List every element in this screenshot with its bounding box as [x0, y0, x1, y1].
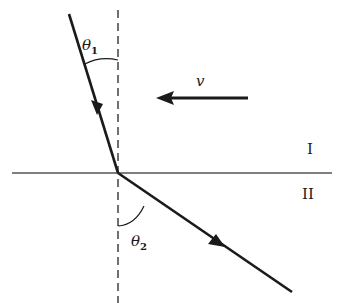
region-upper-label: I: [307, 140, 313, 158]
region-lower-label: II: [302, 185, 314, 203]
incident-arrowhead-icon: [91, 100, 103, 115]
theta1-label: θ1: [82, 36, 98, 56]
theta1-subscript: 1: [91, 45, 98, 56]
theta2-label: θ2: [131, 232, 147, 252]
theta2-arc: [118, 206, 144, 226]
theta2-subscript: 2: [140, 241, 147, 252]
velocity-label: v: [196, 72, 204, 90]
theta2-symbol: θ: [131, 232, 140, 250]
theta1-symbol: θ: [82, 36, 91, 54]
theta1-arc: [85, 59, 118, 64]
refraction-diagram: θ1 θ2 v I II: [0, 0, 342, 303]
diagram-graphics: [0, 0, 342, 303]
